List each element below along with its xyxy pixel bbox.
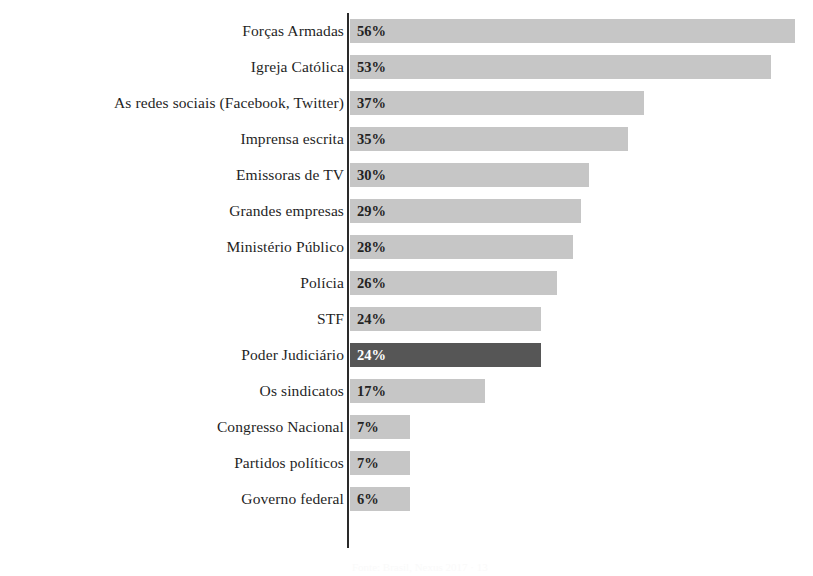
plot-area: Forças Armadas56%Igreja Católica53%As re… xyxy=(0,13,813,548)
bar-wrap: 7% xyxy=(350,451,410,475)
bar-chart-figure: Forças Armadas56%Igreja Católica53%As re… xyxy=(0,0,813,576)
bar-value-label: 6% xyxy=(357,487,379,511)
category-label: Congresso Nacional xyxy=(217,409,344,445)
bar: 6% xyxy=(350,487,410,511)
bar-wrap: 30% xyxy=(350,163,589,187)
category-label: STF xyxy=(317,301,344,337)
bar-value-label: 29% xyxy=(357,199,386,223)
bar-row: Igreja Católica53% xyxy=(0,49,813,85)
bar: 24% xyxy=(350,307,541,331)
bar-value-label: 35% xyxy=(357,127,386,151)
bar-row: Poder Judiciário24% xyxy=(0,337,813,373)
bar: 7% xyxy=(350,415,410,439)
category-label: Emissoras de TV xyxy=(236,157,344,193)
bar-highlighted: 24% xyxy=(350,343,541,367)
bar-value-label: 24% xyxy=(357,307,386,331)
bar: 30% xyxy=(350,163,589,187)
category-label: Os sindicatos xyxy=(260,373,344,409)
category-label: Polícia xyxy=(300,265,344,301)
bar-wrap: 24% xyxy=(350,343,541,367)
category-label: Imprensa escrita xyxy=(240,121,344,157)
bar: 17% xyxy=(350,379,485,403)
bar: 37% xyxy=(350,91,644,115)
bar-value-label: 28% xyxy=(357,235,386,259)
category-label: Partidos políticos xyxy=(234,445,344,481)
category-label: Igreja Católica xyxy=(251,49,344,85)
bar-value-label: 24% xyxy=(357,343,386,367)
bar-value-label: 53% xyxy=(357,55,386,79)
category-label: Grandes empresas xyxy=(229,193,344,229)
bar-row: Forças Armadas56% xyxy=(0,13,813,49)
bar-wrap: 26% xyxy=(350,271,557,295)
bar-value-label: 7% xyxy=(357,451,379,475)
bar: 29% xyxy=(350,199,581,223)
bar-rows: Forças Armadas56%Igreja Católica53%As re… xyxy=(0,13,813,517)
category-label: Poder Judiciário xyxy=(241,337,344,373)
bar-wrap: 7% xyxy=(350,415,410,439)
bar-wrap: 56% xyxy=(350,19,795,43)
bar-row: Ministério Público28% xyxy=(0,229,813,265)
bar-row: STF24% xyxy=(0,301,813,337)
bar-row: As redes sociais (Facebook, Twitter)37% xyxy=(0,85,813,121)
bar-row: Emissoras de TV30% xyxy=(0,157,813,193)
category-label: Governo federal xyxy=(241,481,344,517)
bar-wrap: 37% xyxy=(350,91,644,115)
bar-wrap: 17% xyxy=(350,379,485,403)
bar-row: Partidos políticos7% xyxy=(0,445,813,481)
bar: 28% xyxy=(350,235,573,259)
category-label: Forças Armadas xyxy=(242,13,344,49)
bar-wrap: 24% xyxy=(350,307,541,331)
bar: 35% xyxy=(350,127,628,151)
bar: 53% xyxy=(350,55,771,79)
bar-row: Polícia26% xyxy=(0,265,813,301)
bar-wrap: 53% xyxy=(350,55,771,79)
bar-value-label: 56% xyxy=(357,19,386,43)
source-caption: Fonte: Brasil, Nexus 2017 · 13 xyxy=(352,561,772,574)
bar-wrap: 35% xyxy=(350,127,628,151)
bar-row: Governo federal6% xyxy=(0,481,813,517)
bar-row: Os sindicatos17% xyxy=(0,373,813,409)
bar: 26% xyxy=(350,271,557,295)
bar-value-label: 26% xyxy=(357,271,386,295)
bar-row: Congresso Nacional7% xyxy=(0,409,813,445)
bar: 7% xyxy=(350,451,410,475)
bar-row: Imprensa escrita35% xyxy=(0,121,813,157)
bar-wrap: 28% xyxy=(350,235,573,259)
bar-wrap: 6% xyxy=(350,487,410,511)
bar-row: Grandes empresas29% xyxy=(0,193,813,229)
bar-value-label: 30% xyxy=(357,163,386,187)
bar-wrap: 29% xyxy=(350,199,581,223)
bar-value-label: 7% xyxy=(357,415,379,439)
category-label: As redes sociais (Facebook, Twitter) xyxy=(114,85,344,121)
bar-value-label: 37% xyxy=(357,91,386,115)
category-label: Ministério Público xyxy=(226,229,344,265)
bar-value-label: 17% xyxy=(357,379,386,403)
bar: 56% xyxy=(350,19,795,43)
